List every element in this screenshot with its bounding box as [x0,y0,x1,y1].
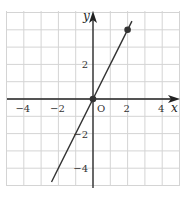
coordinate-plane: −4−2242−2−4 x y O [0,0,184,198]
origin-label: O [97,103,105,114]
data-point [90,96,97,103]
x-tick-label: −4 [15,103,30,114]
y-tick-label: −4 [73,163,88,174]
y-axis-label: y [82,9,90,23]
x-axis-label: x [171,101,178,115]
y-tick-label: 2 [82,59,88,70]
x-tick-label: 2 [123,103,129,114]
data-point [124,27,131,34]
x-tick-label: −2 [50,103,65,114]
x-tick-label: 4 [158,103,164,114]
